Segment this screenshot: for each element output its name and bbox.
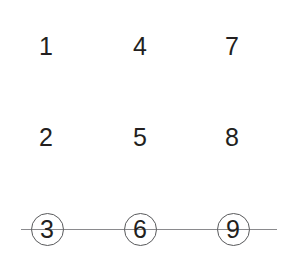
digit: 5 (118, 115, 162, 159)
circled-digit: 3 (31, 213, 64, 246)
digit: 1 (24, 24, 68, 68)
digit: 8 (210, 115, 254, 159)
number-grid-diagram: 123456789 (0, 0, 296, 264)
digit: 2 (24, 115, 68, 159)
digit: 4 (118, 24, 162, 68)
digit: 7 (210, 24, 254, 68)
circled-digit: 9 (217, 213, 250, 246)
circled-digit: 6 (124, 213, 157, 246)
